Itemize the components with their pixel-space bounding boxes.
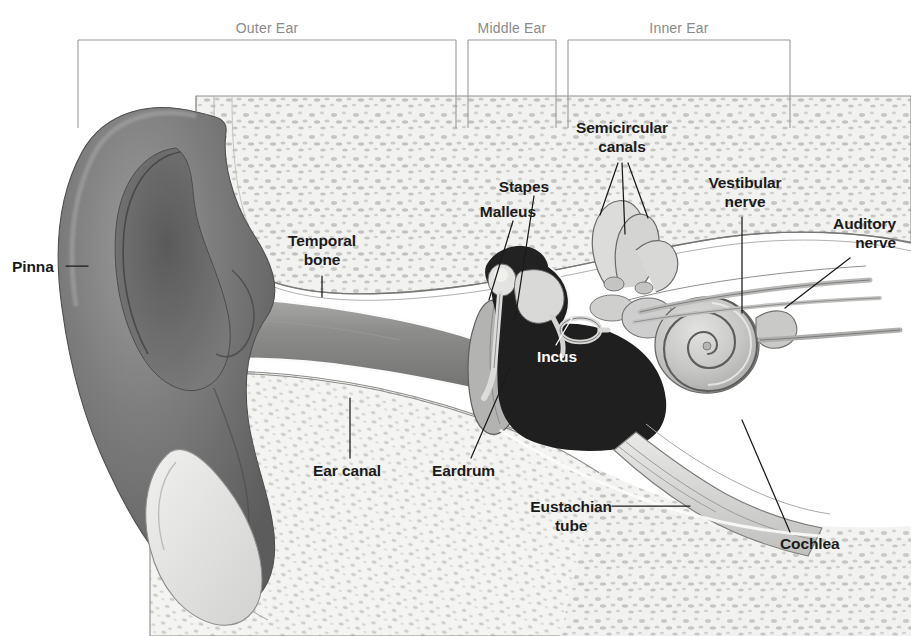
label-ear-canal: Ear canal — [313, 462, 381, 481]
label-eustachian-tube: Eustachian tube — [530, 498, 612, 536]
section-label-inner-ear: Inner Ear — [649, 20, 708, 36]
label-stapes-line-1: Stapes — [499, 178, 549, 197]
label-semicircular-canals: Semicircular canals — [576, 119, 668, 157]
label-eustachian-tube-line-2: tube — [530, 517, 612, 536]
ear-anatomy-figure: Outer Ear Middle Ear Inner Ear Pinna Tem… — [0, 0, 911, 636]
label-malleus: Malleus — [480, 203, 536, 222]
label-auditory-nerve: Auditory nerve — [833, 215, 896, 253]
label-cochlea-line-1: Cochlea — [780, 535, 840, 554]
label-temporal-bone: Temporal bone — [288, 232, 356, 270]
label-vestibular-nerve-line-1: Vestibular — [708, 174, 781, 193]
ear-cross-section-illustration — [0, 0, 911, 636]
label-vestibular-nerve-line-2: nerve — [708, 193, 781, 212]
label-eardrum: Eardrum — [432, 462, 495, 481]
label-temporal-bone-line-1: Temporal — [288, 232, 356, 251]
label-pinna: Pinna — [12, 258, 54, 277]
section-label-outer-ear: Outer Ear — [236, 20, 299, 36]
label-temporal-bone-line-2: bone — [288, 251, 356, 270]
label-incus: Incus — [537, 348, 577, 367]
mastoid-bone-block — [560, 470, 911, 636]
label-incus-line-1: Incus — [537, 348, 577, 367]
label-pinna-line-1: Pinna — [12, 258, 54, 277]
label-cochlea: Cochlea — [780, 535, 840, 554]
label-auditory-nerve-line-2: nerve — [833, 234, 896, 253]
round-window-bump — [756, 311, 797, 348]
label-eardrum-line-1: Eardrum — [432, 462, 495, 481]
section-label-middle-ear: Middle Ear — [478, 20, 547, 36]
label-semicircular-canals-line-2: canals — [576, 138, 668, 157]
label-stapes: Stapes — [499, 178, 549, 197]
label-malleus-line-1: Malleus — [480, 203, 536, 222]
label-ear-canal-line-1: Ear canal — [313, 462, 381, 481]
label-semicircular-canals-line-1: Semicircular — [576, 119, 668, 138]
label-eustachian-tube-line-1: Eustachian — [530, 498, 612, 517]
label-vestibular-nerve: Vestibular nerve — [708, 174, 781, 212]
label-auditory-nerve-line-1: Auditory — [833, 215, 896, 234]
